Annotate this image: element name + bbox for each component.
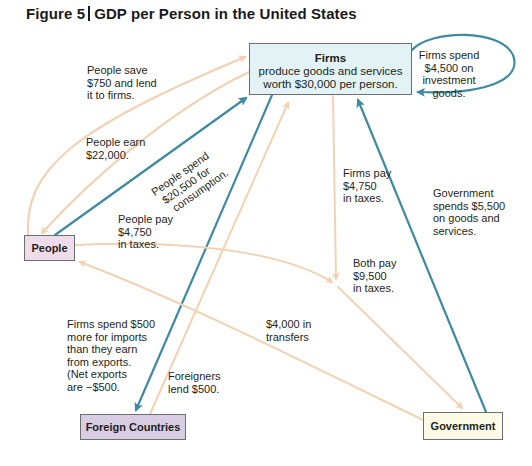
- firms-desc-line1: produce goods and services: [250, 65, 411, 78]
- arrow-both-tax: [338, 287, 462, 408]
- label-net-exports: Firms spend $500more for importsthan the…: [67, 318, 155, 393]
- arrow-foreign-lend: [150, 103, 288, 414]
- label-firms-pay-taxes: Firms pay$4,750in taxes.: [343, 167, 391, 205]
- label-both-pay-taxes: Both pay$9,500in taxes.: [353, 257, 396, 295]
- node-foreign-countries: Foreign Countries: [80, 414, 186, 440]
- label-people-earn: People earn$22,000.: [86, 136, 145, 161]
- firms-desc-line2: worth $30,000 per person.: [250, 78, 411, 91]
- node-firms: Firms produce goods and services worth $…: [249, 43, 412, 95]
- arrow-gov-spend: [358, 100, 486, 412]
- label-people-save: People save$750 and lendit to firms.: [87, 64, 157, 102]
- arrow-imports: [136, 95, 272, 410]
- label-government-spends: Governmentspends $5,500on goods andservi…: [433, 187, 505, 237]
- label-transfers: $4,000 intransfers: [266, 318, 311, 343]
- firms-heading: Firms: [250, 52, 411, 65]
- node-people: People: [24, 235, 75, 261]
- label-foreigners-lend: Foreignerslend $500.: [168, 370, 221, 395]
- label-people-pay-taxes: People pay$4,750in taxes.: [118, 213, 173, 251]
- label-firms-investment: Firms spend$4,500 oninvestmentgoods.: [418, 49, 480, 99]
- node-government: Government: [423, 412, 503, 440]
